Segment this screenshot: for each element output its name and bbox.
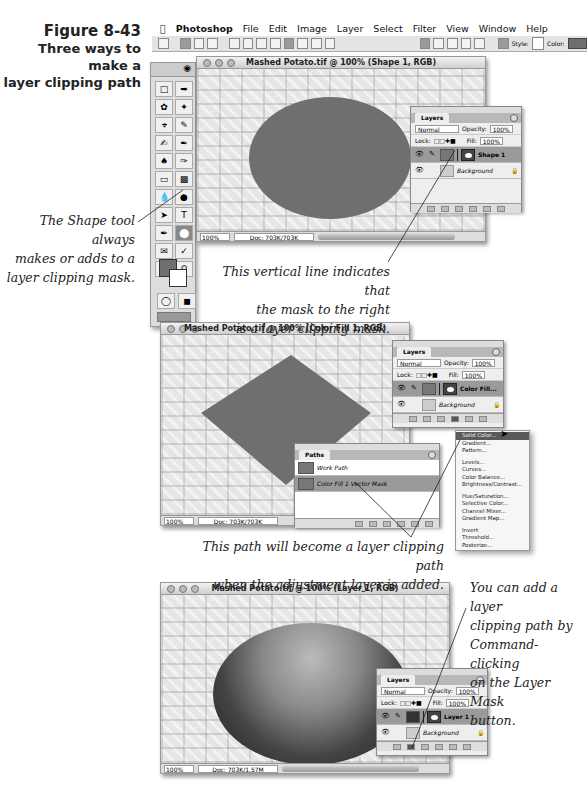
dodge-tool-icon[interactable]: ● (175, 189, 193, 205)
menu-item-pattern[interactable]: Pattern... (456, 447, 529, 455)
new-set-button[interactable] (421, 744, 429, 750)
fill-field[interactable]: 100% (446, 699, 469, 707)
lock-icons[interactable]: □□✚■ (400, 699, 430, 706)
blend-mode-select[interactable]: Normal (397, 359, 441, 367)
layers-tab[interactable]: Layers (415, 113, 449, 123)
menu-item-threshold[interactable]: Threshold... (456, 534, 529, 542)
gradient-tool-icon[interactable]: ▩ (175, 171, 193, 187)
make-work-path-button[interactable] (397, 521, 405, 527)
tool-preset-button[interactable] (158, 38, 169, 49)
pen-tool-button[interactable] (229, 38, 240, 49)
adjustment-layer-button[interactable] (435, 744, 443, 750)
move-tool-icon[interactable]: ➥ (175, 81, 193, 97)
menu-item-color-balance[interactable]: Color Balance... (456, 474, 529, 482)
type-tool-icon[interactable]: T (175, 207, 193, 223)
layers-tab[interactable]: Layers (381, 675, 415, 685)
pen-tool-icon[interactable]: ✒ (155, 225, 173, 241)
rounded-rect-button[interactable] (270, 38, 281, 49)
paths-tab[interactable]: Paths (299, 450, 330, 460)
menu-item-gradient-map[interactable]: Gradient Map... (456, 515, 529, 523)
menu-item-curves[interactable]: Curves... (456, 466, 529, 474)
path-row[interactable]: Work Path (295, 460, 439, 476)
menu-file[interactable]: File (243, 23, 259, 34)
horizontal-scrollbar[interactable] (318, 234, 455, 240)
shape-tool-icon[interactable]: ⬤ (175, 225, 193, 241)
panel-menu-icon[interactable] (492, 348, 500, 356)
load-selection-button[interactable] (383, 521, 391, 527)
fill-pixels-button[interactable] (207, 38, 218, 49)
layer-mask-button[interactable] (441, 206, 449, 212)
add-to-shape-button[interactable] (433, 38, 444, 49)
adjustment-layer-button[interactable] (469, 206, 477, 212)
history-brush-icon[interactable]: ✑ (175, 153, 193, 169)
lasso-tool-icon[interactable]: ✿ (155, 99, 173, 115)
layer-row[interactable]: 👁 Background 🔒 (393, 397, 503, 413)
eye-icon[interactable]: 👁 (414, 166, 424, 176)
eye-icon[interactable]: 👁 (396, 384, 406, 394)
intersect-shape-button[interactable] (461, 38, 472, 49)
notes-tool-icon[interactable]: ✉ (155, 243, 173, 259)
ellipse-button[interactable] (284, 38, 295, 49)
trash-button[interactable] (497, 206, 505, 212)
vector-mask-thumbnail[interactable] (443, 383, 457, 395)
menu-photoshop[interactable]: Photoshop (176, 23, 233, 34)
stroke-path-button[interactable] (369, 521, 377, 527)
screen-mode-buttons[interactable] (157, 312, 191, 322)
menu-item-channel-mixer[interactable]: Channel Mixer... (456, 508, 529, 516)
trash-button[interactable] (479, 416, 487, 422)
trash-button[interactable] (463, 744, 471, 750)
eyedropper-tool-icon[interactable]: ✓ (175, 243, 193, 259)
new-path-button[interactable] (411, 521, 419, 527)
trash-button[interactable] (425, 521, 433, 527)
blend-mode-select[interactable]: Normal (415, 125, 459, 133)
healing-brush-icon[interactable]: ✍ (155, 135, 173, 151)
eye-icon[interactable]: 👁 (380, 712, 390, 722)
menu-filter[interactable]: Filter (413, 23, 437, 34)
menu-item-gradient[interactable]: Gradient... (456, 440, 529, 448)
zoom-field[interactable]: 100% (164, 765, 194, 773)
lock-icons[interactable]: □□✚■ (434, 137, 464, 144)
menu-item-hue-saturation[interactable]: Hue/Saturation... (456, 493, 529, 501)
zoom-field[interactable]: 100% (164, 517, 194, 525)
line-button[interactable] (311, 38, 322, 49)
menu-help[interactable]: Help (526, 23, 548, 34)
new-layer-button[interactable] (483, 206, 491, 212)
menu-item-solid-color[interactable]: Solid Color... (456, 432, 529, 440)
eye-icon[interactable]: 👁 (414, 150, 424, 160)
link-style-button[interactable] (498, 38, 509, 49)
crop-tool-icon[interactable]: ⌖ (155, 117, 173, 133)
new-set-button[interactable] (455, 206, 463, 212)
eraser-tool-icon[interactable]: ▭ (155, 171, 173, 187)
new-layer-button[interactable] (449, 744, 457, 750)
standard-mode-icon[interactable]: ◯ (157, 293, 175, 309)
polygon-button[interactable] (297, 38, 308, 49)
eye-icon[interactable]: 👁 (380, 728, 390, 738)
custom-shape-button[interactable] (325, 38, 336, 49)
panel-menu-icon[interactable] (428, 451, 436, 459)
layer-mask-button[interactable] (407, 744, 415, 750)
layer-style-button[interactable] (427, 206, 435, 212)
brush-tool-icon[interactable]: ✒ (175, 135, 193, 151)
zoom-field[interactable]: 100% (200, 233, 230, 241)
menu-edit[interactable]: Edit (269, 23, 287, 34)
magic-wand-tool-icon[interactable]: ✦ (175, 99, 193, 115)
layer-row[interactable]: 👁 ✎ Shape 1 (411, 147, 521, 163)
menu-layer[interactable]: Layer (337, 23, 364, 34)
new-set-button[interactable] (437, 416, 445, 422)
subtract-shape-button[interactable] (447, 38, 458, 49)
new-layer-button[interactable] (465, 416, 473, 422)
path-selection-icon[interactable]: ➤ (155, 207, 173, 223)
blur-tool-icon[interactable]: 💧 (155, 189, 173, 205)
panel-menu-icon[interactable] (510, 114, 518, 122)
color-swatch[interactable] (568, 38, 587, 49)
menu-view[interactable]: View (446, 23, 469, 34)
eye-icon[interactable]: 👁 (396, 400, 406, 410)
path-row[interactable]: Color Fill 1 Vector Mask (295, 476, 439, 492)
adjustment-layer-button[interactable] (451, 416, 459, 422)
paths-button[interactable] (194, 38, 205, 49)
slice-tool-icon[interactable]: ✎ (175, 117, 193, 133)
layer-row[interactable]: 👁 Background 🔒 (411, 163, 521, 179)
vector-mask-thumbnail[interactable] (461, 149, 475, 161)
menu-select[interactable]: Select (373, 23, 402, 34)
layers-tab[interactable]: Layers (397, 347, 431, 357)
